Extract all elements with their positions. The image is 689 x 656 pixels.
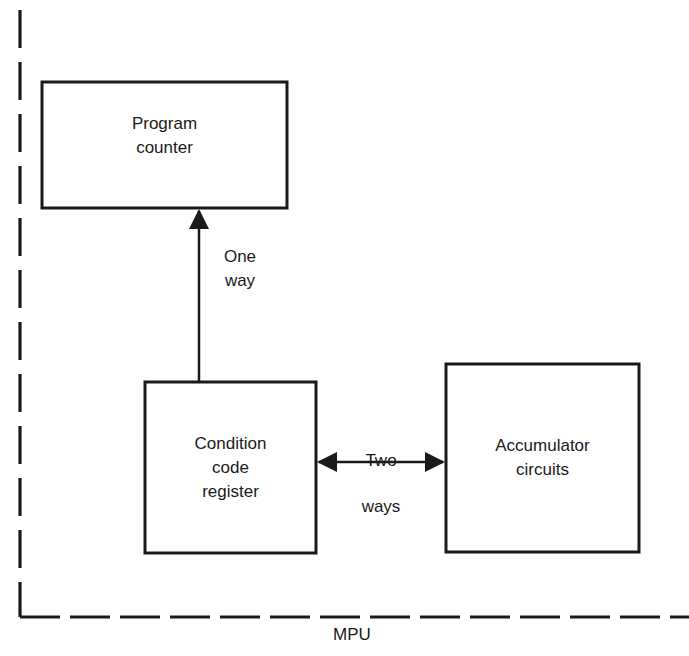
- two-ways-label: Two ways: [341, 438, 421, 530]
- program-counter-label: Program counter: [42, 82, 287, 190]
- mpu-label: MPU: [312, 623, 392, 647]
- accumulator-circuits-label: Accumulator circuits: [446, 364, 639, 552]
- condition-code-register-label: Condition code register: [145, 382, 316, 553]
- one-way-label: One way: [210, 245, 270, 293]
